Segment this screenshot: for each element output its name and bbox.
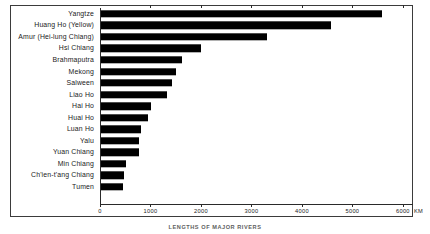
chart-caption: LENGTHS OF MAJOR RIVERS xyxy=(0,224,430,231)
bar-track xyxy=(100,20,413,32)
x-axis-tick-top xyxy=(201,5,202,8)
x-axis-tick-top xyxy=(302,5,303,8)
x-axis-tick-label: 3000 xyxy=(245,208,259,215)
bar-row: Luan Ho xyxy=(10,123,413,135)
bar xyxy=(100,149,139,156)
x-axis-unit-label: KM xyxy=(414,208,423,215)
x-axis-tick xyxy=(201,204,202,207)
x-axis-tick-label: 2000 xyxy=(194,208,208,215)
bar-row: Yangtze xyxy=(10,8,413,20)
bar-row: Yalu xyxy=(10,135,413,147)
bar-track xyxy=(100,135,413,147)
bar-category-label: Min Chiang xyxy=(10,160,100,168)
bar xyxy=(100,68,176,75)
x-axis-tick xyxy=(403,204,404,207)
x-axis-tick xyxy=(352,204,353,207)
bar-row: Yuan Chiang xyxy=(10,147,413,159)
bar-track xyxy=(100,8,413,20)
x-axis-tick-top xyxy=(251,5,252,8)
bar-row: Mekong xyxy=(10,66,413,78)
bar-row: Ch'ien-t'ang Chiang xyxy=(10,170,413,182)
bar-category-label: Huang Ho (Yellow) xyxy=(10,21,100,29)
bar xyxy=(100,137,139,144)
bar-track xyxy=(100,100,413,112)
x-axis-tick-label: 0 xyxy=(98,208,101,215)
bar-category-label: Liao Ho xyxy=(10,91,100,99)
bar-category-label: Tumen xyxy=(10,183,100,191)
bar-track xyxy=(100,89,413,101)
bar-row: Huai Ho xyxy=(10,112,413,124)
x-axis-tick xyxy=(251,204,252,207)
bar-track xyxy=(100,123,413,135)
bar-category-label: Brahmaputra xyxy=(10,56,100,64)
bar-track xyxy=(100,170,413,182)
x-axis-tick-top xyxy=(150,5,151,8)
bar xyxy=(100,114,148,121)
bar xyxy=(100,160,126,167)
bar-category-label: Mekong xyxy=(10,68,100,76)
chart-plot-area: YangtzeHuang Ho (Yellow)Amur (Hei-lung C… xyxy=(10,5,413,217)
bar-category-label: Hsi Chiang xyxy=(10,44,100,52)
bar-category-label: Huai Ho xyxy=(10,114,100,122)
x-axis-tick xyxy=(302,204,303,207)
bar-track xyxy=(100,54,413,66)
bar-row: Hsi Chiang xyxy=(10,43,413,55)
bar-category-label: Yangtze xyxy=(10,10,100,18)
x-axis-tick xyxy=(100,204,101,207)
bar xyxy=(100,10,382,17)
bar-track xyxy=(100,147,413,159)
bar xyxy=(100,172,124,179)
bar-rows: YangtzeHuang Ho (Yellow)Amur (Hei-lung C… xyxy=(10,8,413,204)
bar-track xyxy=(100,43,413,55)
bar xyxy=(100,102,151,109)
x-axis-tick-label: 6000 xyxy=(396,208,410,215)
bar-row: Huang Ho (Yellow) xyxy=(10,20,413,32)
bar-category-label: Salween xyxy=(10,79,100,87)
bar-row: Hai Ho xyxy=(10,100,413,112)
bar xyxy=(100,45,201,52)
bar-category-label: Amur (Hei-lung Chiang) xyxy=(10,33,100,41)
bar-category-label: Ch'ien-t'ang Chiang xyxy=(10,171,100,179)
bar-category-label: Yuan Chiang xyxy=(10,148,100,156)
x-axis-tick-top xyxy=(352,5,353,8)
bar-row: Tumen xyxy=(10,181,413,193)
bar xyxy=(100,22,331,29)
x-axis-tick-top xyxy=(403,5,404,8)
bar-track xyxy=(100,66,413,78)
bar-track xyxy=(100,158,413,170)
bar-row: Min Chiang xyxy=(10,158,413,170)
bar xyxy=(100,56,182,63)
bar-track xyxy=(100,112,413,124)
bar xyxy=(100,33,267,40)
bar-category-label: Luan Ho xyxy=(10,125,100,133)
x-axis-tick-label: 4000 xyxy=(295,208,309,215)
bar xyxy=(100,91,167,98)
bar-category-label: Hai Ho xyxy=(10,102,100,110)
bar-row: Liao Ho xyxy=(10,89,413,101)
x-axis-line xyxy=(100,204,413,205)
x-axis-tick-label: 1000 xyxy=(144,208,158,215)
x-axis-tick-label: 5000 xyxy=(345,208,359,215)
bar-category-label: Yalu xyxy=(10,137,100,145)
chart-figure: YangtzeHuang Ho (Yellow)Amur (Hei-lung C… xyxy=(0,0,430,234)
bar-track xyxy=(100,181,413,193)
y-axis-line xyxy=(100,8,101,204)
bar-row: Salween xyxy=(10,77,413,89)
bar xyxy=(100,126,141,133)
bar-track xyxy=(100,31,413,43)
bar xyxy=(100,183,123,190)
bar xyxy=(100,79,172,86)
bar-row: Amur (Hei-lung Chiang) xyxy=(10,31,413,43)
bar-track xyxy=(100,77,413,89)
x-axis-tick xyxy=(150,204,151,207)
bar-row: Brahmaputra xyxy=(10,54,413,66)
